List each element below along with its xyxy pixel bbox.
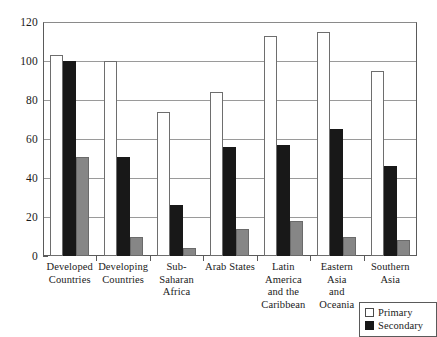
chart-legend: Primary Secondary: [359, 302, 437, 337]
y-axis: 120 100 80 60 40 20 0: [0, 22, 38, 256]
bar-secondary: [117, 157, 130, 256]
bar-primary: [157, 112, 170, 256]
x-axis-label: DevelopingCountries: [96, 261, 149, 311]
bar-group: [43, 22, 96, 256]
bar-primary: [264, 36, 277, 256]
bar-tertiary: [397, 240, 410, 256]
legend-swatch-secondary-icon: [365, 321, 374, 330]
bar-primary: [210, 92, 223, 256]
x-axis-label: Eastern Asiaand Oceania: [310, 261, 363, 311]
y-tick-label: 20: [26, 211, 38, 223]
bar-tertiary: [130, 237, 143, 257]
y-tick-label: 60: [26, 133, 38, 145]
bar-secondary: [277, 145, 290, 256]
y-tick-label: 0: [32, 250, 38, 262]
bar-tertiary: [76, 157, 89, 256]
y-tick-mark: [43, 256, 48, 257]
bar-primary: [50, 55, 63, 256]
bar-secondary: [384, 166, 397, 256]
bar-tertiary: [343, 237, 356, 257]
x-axis-label: DevelopedCountries: [43, 261, 96, 311]
bar-groups: [43, 22, 417, 256]
legend-label: Secondary: [378, 320, 423, 331]
bar-group: [257, 22, 310, 256]
bar-tertiary: [183, 248, 196, 256]
bar-secondary: [330, 129, 343, 256]
legend-label: Primary: [378, 307, 413, 318]
y-tick-label: 120: [20, 16, 38, 28]
bar-group: [203, 22, 256, 256]
bar-secondary: [223, 147, 236, 256]
x-axis-label: Sub-SaharanAfrica: [150, 261, 203, 311]
bar-primary: [317, 32, 330, 256]
legend-swatch-primary-icon: [365, 308, 374, 317]
x-axis-label: Latin Americaand theCaribbean: [257, 261, 310, 311]
y-tick-label: 40: [26, 172, 38, 184]
y-tick-label: 80: [26, 94, 38, 106]
x-axis-label: Arab States: [203, 261, 256, 311]
bar-group: [150, 22, 203, 256]
bar-secondary: [63, 61, 76, 256]
bar-group: [364, 22, 417, 256]
bar-tertiary: [290, 221, 303, 256]
legend-item-secondary: Secondary: [365, 319, 432, 332]
bar-tertiary: [236, 229, 249, 256]
bar-secondary: [170, 205, 183, 256]
bar-primary: [371, 71, 384, 256]
bar-group: [96, 22, 149, 256]
bar-group: [310, 22, 363, 256]
bar-primary: [104, 61, 117, 256]
legend-item-primary: Primary: [365, 306, 432, 319]
y-tick-label: 100: [20, 55, 38, 67]
